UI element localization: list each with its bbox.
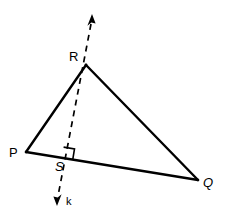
vertex-label-Q: Q bbox=[203, 176, 213, 189]
segment-RQ bbox=[86, 65, 198, 180]
line-k-arrow-bottom bbox=[53, 194, 61, 206]
segment-PQ bbox=[26, 152, 198, 180]
vertex-dot-Q bbox=[197, 179, 199, 181]
geometry-canvas bbox=[0, 0, 225, 218]
geometry-figure: R P Q S k bbox=[0, 0, 225, 218]
line-label-k: k bbox=[66, 196, 72, 207]
vertex-dot-R bbox=[85, 64, 88, 67]
vertex-label-R: R bbox=[69, 50, 78, 63]
vertex-label-P: P bbox=[9, 146, 18, 159]
segment-PR bbox=[26, 65, 86, 152]
vertex-dot-P bbox=[25, 151, 27, 153]
line-k-arrow-top bbox=[87, 14, 95, 26]
vertex-label-S: S bbox=[55, 160, 64, 173]
